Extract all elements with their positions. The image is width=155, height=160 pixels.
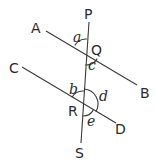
- label-r: R: [68, 103, 78, 119]
- angle-label-e: e: [87, 113, 95, 129]
- label-b: B: [140, 85, 150, 101]
- angle-label-c: c: [88, 57, 96, 73]
- label-d: D: [115, 121, 126, 137]
- angle-label-b: b: [69, 81, 78, 97]
- label-a: A: [31, 20, 41, 36]
- angle-label-a: a: [73, 29, 81, 45]
- label-p: P: [84, 6, 92, 22]
- parallel-lines-diagram: P Q R S A B C D a b c d e: [0, 0, 155, 160]
- angle-label-d: d: [99, 88, 108, 104]
- label-q: Q: [91, 42, 102, 58]
- label-c: C: [9, 60, 19, 76]
- label-s: S: [75, 145, 84, 160]
